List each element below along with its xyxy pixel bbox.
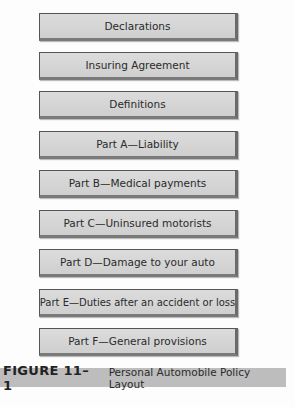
section-definitions: Definitions	[39, 91, 238, 119]
section-label: Part A—Liability	[96, 138, 179, 150]
section-label: Declarations	[104, 20, 170, 32]
figure-caption: FIGURE 11–1 Personal Automobile Policy L…	[0, 368, 286, 387]
section-label: Part D—Damage to your auto	[60, 256, 215, 268]
section-label: Insuring Agreement	[85, 59, 189, 71]
section-part-f: Part F—General provisions	[39, 328, 238, 356]
section-part-c: Part C—Uninsured motorists	[39, 210, 238, 238]
section-insuring-agreement: Insuring Agreement	[39, 52, 238, 80]
figure-title: Personal Automobile Policy Layout	[109, 366, 286, 390]
section-part-d: Part D—Damage to your auto	[39, 249, 238, 277]
section-part-e: Part E—Duties after an accident or loss	[39, 289, 238, 317]
section-label: Definitions	[109, 98, 165, 110]
section-label: Part B—Medical payments	[69, 177, 207, 189]
section-part-a: Part A—Liability	[39, 131, 238, 159]
section-label: Part E—Duties after an accident or loss	[40, 297, 236, 308]
section-part-b: Part B—Medical payments	[39, 170, 238, 198]
section-declarations: Declarations	[39, 13, 238, 41]
figure-label: FIGURE 11–1	[0, 363, 97, 393]
section-label: Part C—Uninsured motorists	[64, 217, 212, 229]
section-label: Part F—General provisions	[68, 335, 207, 347]
